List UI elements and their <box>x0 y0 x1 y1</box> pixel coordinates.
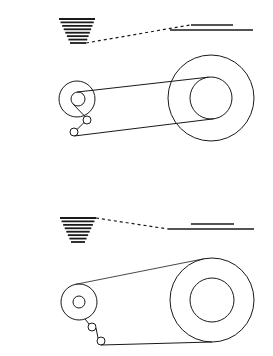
panel-bottom <box>60 218 254 345</box>
dashed-connector <box>96 218 168 229</box>
tape-lower <box>74 119 213 136</box>
stacked-lines-icon <box>59 19 95 43</box>
stacked-lines-icon <box>60 218 96 242</box>
large-reel-hub <box>190 77 232 119</box>
tape-lower <box>101 342 212 345</box>
small-spool-outer <box>61 284 97 320</box>
diagram-panels <box>59 19 254 345</box>
panel-top <box>59 19 254 141</box>
dashed-connector <box>86 25 190 43</box>
large-reel-hub <box>190 278 234 322</box>
small-spool-hub <box>71 92 85 106</box>
large-reel-outer <box>168 55 254 141</box>
small-spool-outer <box>59 81 95 117</box>
tape-upper <box>75 259 203 285</box>
large-reel-outer <box>170 258 254 342</box>
tape-upper <box>77 77 208 92</box>
reel-diagram <box>0 0 273 356</box>
small-spool-hub <box>73 296 85 308</box>
guide-roller-1 <box>88 323 96 331</box>
tape-roller-link <box>77 123 84 130</box>
guide-roller-2 <box>97 337 105 345</box>
tape-to-roller <box>85 319 89 324</box>
tape-roller-link <box>96 328 98 338</box>
